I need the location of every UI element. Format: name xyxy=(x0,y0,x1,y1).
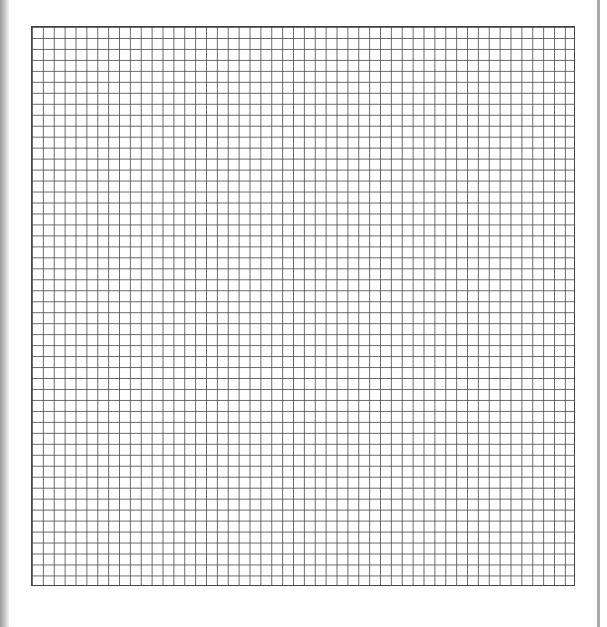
scan-edge-bar xyxy=(597,0,600,627)
scan-edge-shadow xyxy=(0,0,9,627)
graph-paper-grid xyxy=(31,26,575,586)
